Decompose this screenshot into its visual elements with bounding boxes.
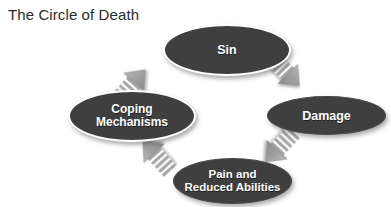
node-sin-label: Sin xyxy=(213,43,240,57)
node-coping-label-line2: Mechanisms xyxy=(96,115,168,129)
page-title: The Circle of Death xyxy=(8,6,139,23)
node-pain[interactable]: Pain and Reduced Abilities xyxy=(173,158,292,204)
node-coping-label-line1: Coping xyxy=(111,102,152,116)
node-damage[interactable]: Damage xyxy=(267,96,386,135)
node-damage-label: Damage xyxy=(298,109,355,123)
node-pain-label: Pain and Reduced Abilities xyxy=(180,168,284,194)
node-sin[interactable]: Sin xyxy=(163,24,291,76)
node-coping[interactable]: Coping Mechanisms xyxy=(68,90,196,142)
node-pain-label-line1: Pain and xyxy=(209,168,257,180)
node-pain-label-line2: Reduced Abilities xyxy=(184,181,280,193)
diagram-canvas: The Circle of Death xyxy=(0,0,391,207)
node-coping-label: Coping Mechanisms xyxy=(92,103,172,130)
